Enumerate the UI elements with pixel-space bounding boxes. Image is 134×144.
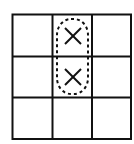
x-mark-r0c1: [65, 28, 81, 44]
tic-tac-toe-diagram: [0, 0, 134, 144]
x-mark-r1c1: [65, 69, 81, 85]
